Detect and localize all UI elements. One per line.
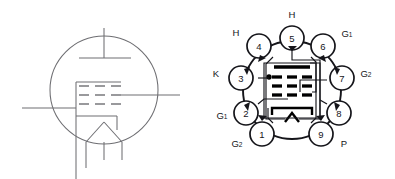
pin-4-number: 4 <box>256 41 261 52</box>
pin-6-number: 6 <box>320 41 325 52</box>
pin-5-label: H <box>289 9 296 20</box>
pin-7[interactable]: 7 <box>330 66 354 90</box>
nine-pin-base-pinout: 1 2 3 4 5 <box>213 9 372 149</box>
pin-6[interactable]: 6 <box>311 34 335 58</box>
pin-7-label: G2 <box>360 68 371 79</box>
pin-1-label: G2 <box>231 138 242 149</box>
pin-6-label: G1 <box>341 28 352 39</box>
pin-4-label: H <box>233 27 240 38</box>
pin-7-number: 7 <box>339 73 344 84</box>
figure-canvas: 1 2 3 4 5 <box>0 0 395 179</box>
pin-9[interactable]: 9 <box>309 122 333 146</box>
pin-5-number: 5 <box>289 33 294 44</box>
cathode-electrode <box>76 116 117 130</box>
pin-9-number: 9 <box>318 129 323 140</box>
bottom-leads <box>76 116 122 179</box>
pin-1[interactable]: 1 <box>250 122 274 146</box>
pin-2-label: G1 <box>216 110 227 121</box>
tube-schematic-symbol <box>22 28 180 179</box>
pin-3[interactable]: 3 <box>229 66 253 90</box>
pin-9-label: P <box>341 138 347 149</box>
grid-lead-left <box>22 82 121 116</box>
pin-3-number: 3 <box>238 73 243 84</box>
plate-electrode <box>79 28 131 58</box>
junction-dot <box>266 74 271 79</box>
pin-1-number: 1 <box>259 129 264 140</box>
grid-electrodes <box>79 86 121 104</box>
pin-3-label: K <box>213 68 220 79</box>
tube-figure: 1 2 3 4 5 <box>0 0 395 179</box>
pin-4[interactable]: 4 <box>247 34 271 58</box>
internal-electrode-assembly <box>266 67 312 122</box>
